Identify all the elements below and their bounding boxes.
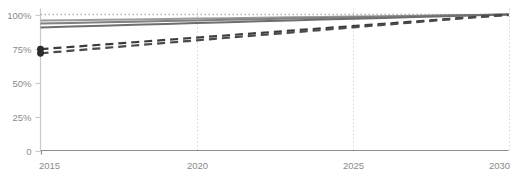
x-axis-label-2025: 2025: [343, 160, 364, 171]
y-axis-label-50%: 50%: [12, 78, 32, 89]
y-axis-label-25%: 25%: [12, 112, 32, 123]
y-axis-labels: 025%50%75%100%: [7, 10, 32, 157]
x-axis-label-2015: 2015: [39, 160, 60, 171]
x-axis-labels: 2015202020252030: [39, 160, 510, 171]
marker-2015-b: [37, 50, 44, 57]
x-axis-label-2020: 2020: [187, 160, 208, 171]
gridlines: [198, 9, 510, 151]
x-axis-label-2030: 2030: [489, 160, 510, 171]
y-axis-ticks: [36, 16, 41, 152]
line-chart: 025%50%75%100% 2015202020252030: [0, 0, 523, 178]
data-markers: [37, 46, 44, 57]
y-axis-label-75%: 75%: [12, 44, 32, 55]
axes: [41, 9, 509, 151]
chart-canvas: 025%50%75%100% 2015202020252030: [0, 0, 523, 178]
y-axis-label-100%: 100%: [7, 10, 32, 21]
series-line-solid-lower: [41, 15, 509, 28]
data-series: [41, 15, 509, 54]
y-axis-label-0: 0: [26, 146, 31, 157]
